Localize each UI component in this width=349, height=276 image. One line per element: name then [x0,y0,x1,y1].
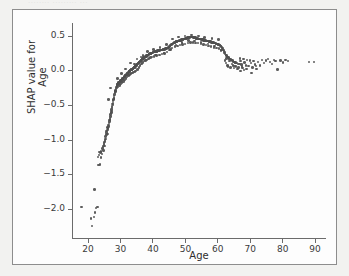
scatter-point [116,83,119,86]
scatter-point [227,65,230,68]
scatter-point [108,119,111,122]
scatter-point [211,41,214,44]
scatter-point [103,145,106,148]
scatter-point [190,34,193,37]
scatter-point [110,112,113,115]
scatter-point [134,65,137,68]
scatter-point [117,82,120,85]
scatter-point [171,43,174,46]
scatter-point [232,61,235,64]
scatter-point [226,64,229,67]
scatter-point [149,53,152,56]
scatter-point [128,70,131,73]
scatter-point [166,47,169,50]
scatter-point [200,41,203,44]
scatter-point [129,69,132,72]
scatter-point [233,65,236,68]
scatter-point [125,77,128,80]
scatter-point [146,54,149,57]
scatter-point [175,40,178,43]
scatter-point [222,48,225,51]
scatter-point [141,58,144,61]
scatter-point [195,37,198,40]
scatter-point [93,188,96,191]
scatter-point [130,69,133,72]
y-tick-label: −2.0 [43,203,65,213]
scatter-point [115,87,118,90]
scatter-point [187,39,190,42]
scatter-point [140,59,143,62]
scatter-point [152,51,155,54]
scatter-point [139,64,142,67]
scatter-point [143,60,146,63]
scatter-point [136,68,139,71]
y-tick-label: 0.5 [51,30,65,40]
scatter-point [134,65,137,68]
scatter-point [163,52,166,55]
scatter-point [199,38,202,41]
scatter-point [180,38,183,41]
scatter-point [113,97,116,100]
scatter-point [135,65,138,68]
scatter-point [149,56,152,59]
scatter-point [195,37,198,40]
scatter-point [154,50,157,53]
scatter-point [114,92,117,95]
scatter-point [113,93,116,96]
scatter-point [263,62,266,65]
scatter-point [207,40,210,43]
scatter-point [223,52,226,55]
scatter-point [191,36,194,39]
scatter-point [210,45,213,48]
scatter-point [196,37,199,40]
scatter-point [105,133,108,136]
scatter-point [136,63,139,66]
scatter-point [242,58,245,61]
scatter-point [213,42,216,45]
scatter-point [137,62,140,65]
scatter-point [103,141,106,144]
scatter-point [165,47,168,50]
scatter-point [225,54,228,57]
scatter-point [153,55,156,58]
scatter-point [194,42,197,45]
scatter-point [192,36,195,39]
y-axis-title-line-1: SHAP value for [26,40,37,114]
scatter-point [231,63,234,66]
scatter-point [112,99,115,102]
scatter-point [138,61,141,64]
scatter-point [151,52,154,55]
scatter-point [171,47,174,50]
scatter-point [130,68,133,71]
scatter-point [226,55,229,58]
scatter-point [271,63,274,66]
scatter-point [170,43,173,46]
scatter-point [117,81,120,84]
scatter-point [255,68,258,71]
scatter-point [218,44,221,47]
scatter-point [245,68,248,71]
scatter-point [140,59,143,62]
scatter-point [121,78,124,81]
scatter-point [133,66,136,69]
scatter-point [201,38,204,41]
scatter-point [136,58,139,61]
x-tick: 60 [217,239,218,243]
scatter-point [133,66,136,69]
scatter-point [230,59,233,62]
y-tick: −2.0 [68,209,72,210]
scatter-point [105,130,108,133]
scatter-point [228,57,231,60]
scatter-point [236,68,239,71]
scatter-point [171,38,174,41]
scatter-point [128,70,131,73]
figure-card: 0.50.0−0.5−1.0−1.5−2.0 2030405060708090 … [12,9,337,265]
scatter-point [140,59,143,62]
scatter-point [120,79,123,82]
scatter-point [178,40,181,43]
scatter-point [149,52,152,55]
scatter-point [207,43,210,46]
scatter-point [169,45,172,48]
scatter-point [202,43,205,46]
scatter-point [109,115,112,118]
